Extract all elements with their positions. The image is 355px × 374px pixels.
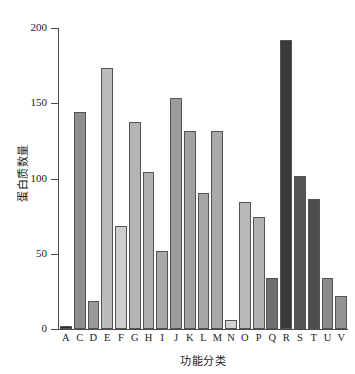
x-axis-label-d: D <box>87 332 101 343</box>
x-axis-tick-labels: ACDEFGHIJKLMNOPQRSTUV <box>59 332 348 343</box>
y-axis-tick-label: 150 <box>31 96 48 108</box>
bar-slot <box>197 28 211 329</box>
y-axis-tick: 200 <box>51 28 58 29</box>
bar-u <box>322 278 334 329</box>
x-axis-label-t: T <box>307 332 321 343</box>
bar-slot <box>334 28 348 329</box>
bar-h <box>143 172 155 330</box>
bar-s <box>294 176 306 329</box>
bar-chart: 蛋白质数量 050100150200 ACDEFGHIJKLMNOPQRSTUV… <box>0 0 355 374</box>
x-axis-label-i: I <box>155 332 169 343</box>
bar-slot <box>59 28 73 329</box>
bar-q <box>266 278 278 329</box>
bar-o <box>239 202 251 330</box>
bar-d <box>88 301 100 330</box>
bar-slot <box>142 28 156 329</box>
bar-p <box>253 217 265 330</box>
bar-slot <box>210 28 224 329</box>
y-axis-tick-label: 50 <box>36 247 47 259</box>
bar-slot <box>238 28 252 329</box>
y-axis-tick: 0 <box>51 329 58 330</box>
plot-area: 050100150200 <box>58 28 348 330</box>
y-axis-tick: 100 <box>51 179 58 180</box>
x-axis-label-a: A <box>59 332 73 343</box>
x-axis-label-h: H <box>142 332 156 343</box>
bar-slot <box>252 28 266 329</box>
bar-slot <box>100 28 114 329</box>
x-axis-label-m: M <box>210 332 224 343</box>
bar-k <box>184 131 196 329</box>
bar-t <box>308 199 320 330</box>
bar-e <box>101 68 113 329</box>
bar-slot <box>224 28 238 329</box>
bar-slot <box>114 28 128 329</box>
x-axis-label-o: O <box>238 332 252 343</box>
bars-container <box>59 28 348 329</box>
bar-m <box>211 131 223 329</box>
x-axis-label-g: G <box>128 332 142 343</box>
x-axis-label-q: Q <box>265 332 279 343</box>
x-axis-title: 功能分类 <box>58 352 348 368</box>
bar-slot <box>128 28 142 329</box>
x-axis-label-p: P <box>252 332 266 343</box>
bar-c <box>74 112 86 330</box>
x-axis-label-n: N <box>224 332 238 343</box>
bar-r <box>280 40 292 330</box>
y-axis-tick-label: 100 <box>31 172 48 184</box>
bar-slot <box>169 28 183 329</box>
bar-slot <box>183 28 197 329</box>
bar-slot <box>155 28 169 329</box>
x-axis-label-j: J <box>169 332 183 343</box>
bar-j <box>170 98 182 329</box>
bar-slot <box>307 28 321 329</box>
bar-slot <box>321 28 335 329</box>
x-axis-label-l: L <box>197 332 211 343</box>
bar-i <box>156 251 168 329</box>
x-axis-line <box>58 329 348 330</box>
x-axis-label-c: C <box>73 332 87 343</box>
bar-v <box>335 296 347 329</box>
x-axis-label-f: F <box>114 332 128 343</box>
bar-slot <box>279 28 293 329</box>
bar-slot <box>87 28 101 329</box>
y-axis-tick-label: 0 <box>42 322 48 334</box>
bar-a <box>60 326 72 329</box>
x-axis-label-k: K <box>183 332 197 343</box>
x-axis-label-v: V <box>334 332 348 343</box>
y-axis-tick-label: 200 <box>31 21 48 33</box>
x-axis-label-r: R <box>279 332 293 343</box>
y-axis-title: 蛋白质数量 <box>14 128 30 218</box>
y-axis-tick: 150 <box>51 103 58 104</box>
bar-slot <box>293 28 307 329</box>
y-axis-tick: 50 <box>51 254 58 255</box>
bar-slot <box>265 28 279 329</box>
x-axis-label-u: U <box>321 332 335 343</box>
bar-l <box>198 193 210 330</box>
x-axis-label-e: E <box>100 332 114 343</box>
x-axis-label-s: S <box>293 332 307 343</box>
bar-g <box>129 122 141 329</box>
bar-n <box>225 320 237 329</box>
bar-slot <box>73 28 87 329</box>
bar-f <box>115 226 127 330</box>
